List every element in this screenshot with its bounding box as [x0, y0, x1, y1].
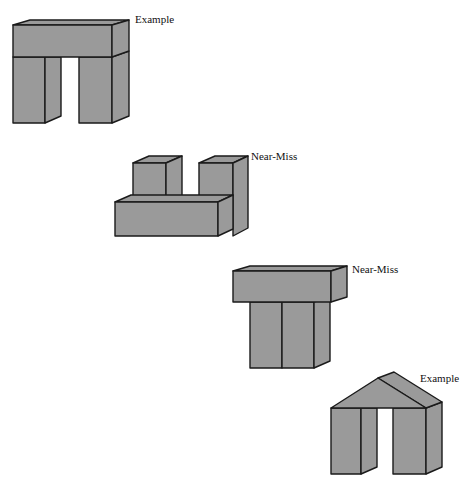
left-pillar-side: [45, 57, 61, 123]
lintel-top: [13, 20, 129, 25]
right-pillar-front: [393, 408, 426, 474]
left-pillar-front: [13, 57, 45, 123]
right-block-front: [199, 163, 233, 196]
left-pillar-front: [331, 408, 361, 474]
right-block-side: [233, 156, 248, 236]
label-example-1: Example: [135, 14, 174, 25]
column-left-front: [250, 302, 282, 368]
base-side: [218, 195, 233, 236]
slab-side: [331, 266, 347, 302]
right-pillar-side: [112, 51, 129, 123]
base-top: [115, 195, 233, 202]
figure-near-miss-1: [115, 156, 248, 236]
right-pillar-front: [79, 57, 112, 123]
lintel-front: [13, 25, 112, 57]
lintel-side: [112, 20, 129, 57]
label-near-miss-2: Near-Miss: [352, 264, 398, 275]
slab-top: [233, 266, 347, 271]
figure-near-miss-2: [233, 266, 347, 368]
column-right-front: [282, 302, 314, 368]
left-pillar-side: [361, 408, 377, 474]
figure-arch-example-1: [13, 20, 129, 123]
right-pillar-side: [426, 402, 442, 474]
column-side: [314, 297, 330, 368]
label-near-miss-1: Near-Miss: [251, 151, 297, 162]
base-front: [115, 202, 218, 236]
slab-front: [233, 271, 331, 302]
diagram-canvas: [0, 0, 473, 490]
label-example-2: Example: [420, 373, 459, 384]
figure-arch-example-2: [331, 372, 442, 474]
